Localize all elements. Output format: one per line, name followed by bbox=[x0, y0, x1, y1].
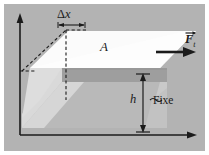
delta-symbol: Δ bbox=[57, 7, 65, 21]
block-mid-band bbox=[62, 70, 167, 82]
force-subscript: t bbox=[193, 40, 195, 49]
diagram-svg bbox=[0, 0, 209, 155]
delta-x-variable: x bbox=[65, 7, 71, 21]
physics-shear-diagram: Δx A h Fixe Ft bbox=[0, 0, 209, 155]
delta-x-label: Δx bbox=[57, 8, 71, 21]
diagram-canvas bbox=[0, 0, 209, 155]
block-mid-band-edge bbox=[62, 68, 167, 70]
force-label: Ft bbox=[185, 33, 196, 49]
fixed-label: Fixe bbox=[153, 95, 173, 107]
area-label: A bbox=[100, 40, 108, 53]
height-label: h bbox=[130, 93, 136, 106]
